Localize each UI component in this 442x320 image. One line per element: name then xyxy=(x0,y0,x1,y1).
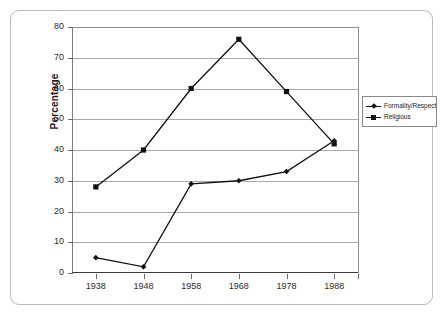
y-axis-tick-label: 40 xyxy=(36,145,64,154)
gridline xyxy=(73,212,359,213)
gridline xyxy=(73,150,359,151)
x-axis-tick xyxy=(191,274,192,279)
gridline xyxy=(73,181,359,182)
y-axis-tick-label: 10 xyxy=(36,237,64,246)
y-axis-tick-label: 30 xyxy=(36,176,64,185)
legend-item-label: Formality/Respect xyxy=(384,103,436,110)
plot-right-border xyxy=(358,27,359,273)
gridline xyxy=(73,119,359,120)
y-axis-tick xyxy=(68,89,73,90)
y-axis-tick xyxy=(68,242,73,243)
gridline xyxy=(73,242,359,243)
x-axis-tick xyxy=(287,274,288,279)
legend-item-label: Religious xyxy=(384,114,411,121)
legend-square-marker-icon xyxy=(366,113,381,122)
x-axis-tick-label: 1958 xyxy=(171,282,211,291)
gridline xyxy=(73,58,359,59)
gridline xyxy=(73,89,359,90)
legend-diamond-marker-icon xyxy=(366,102,381,111)
y-axis-tick-label: 20 xyxy=(36,207,64,216)
y-axis-tick xyxy=(68,27,73,28)
x-axis-tick xyxy=(334,274,335,279)
x-axis-tick-label: 1968 xyxy=(219,282,259,291)
legend-item[interactable]: Formality/Respect xyxy=(366,101,434,111)
gridline xyxy=(73,27,359,28)
y-axis-tick-label: 60 xyxy=(36,84,64,93)
y-axis-tick xyxy=(68,212,73,213)
y-axis-tick-label: 70 xyxy=(36,53,64,62)
y-axis-tick-label: 50 xyxy=(36,114,64,123)
chart-legend: Formality/RespectReligious xyxy=(362,96,437,127)
y-axis-tick xyxy=(68,181,73,182)
x-axis-tick-label: 1938 xyxy=(76,282,116,291)
y-axis-tick-label: 80 xyxy=(36,22,64,31)
y-axis-tick xyxy=(68,58,73,59)
x-axis-tick xyxy=(144,274,145,279)
x-axis-tick-label: 1988 xyxy=(314,282,354,291)
x-axis: 193819481958196819781988 xyxy=(72,274,358,298)
x-axis-tick-label: 1948 xyxy=(124,282,164,291)
y-axis-tick xyxy=(68,150,73,151)
x-axis-tick xyxy=(239,274,240,279)
x-axis-tick xyxy=(96,274,97,279)
y-axis-tick xyxy=(68,119,73,120)
x-axis-tick xyxy=(358,274,359,279)
chart-figure: Percentage 01020304050607080 19381948195… xyxy=(0,0,442,320)
legend-item[interactable]: Religious xyxy=(366,112,434,122)
plot-area xyxy=(72,27,358,273)
x-axis-tick-label: 1978 xyxy=(267,282,307,291)
y-axis-tick-label: 0 xyxy=(36,268,64,277)
